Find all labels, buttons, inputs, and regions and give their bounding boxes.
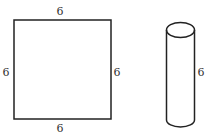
square-bottom-label: 6: [57, 122, 64, 135]
square-top-label: 6: [57, 5, 64, 18]
square-left-label: 6: [3, 66, 10, 79]
square-shape: [14, 20, 111, 119]
diagram-canvas: 6 6 6 6 6: [0, 0, 207, 135]
square-right-label: 6: [114, 66, 121, 79]
cylinder-height-label: 6: [198, 66, 205, 79]
cylinder-shape: [167, 23, 195, 128]
